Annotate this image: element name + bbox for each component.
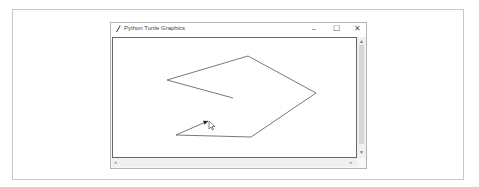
turtle-path: [167, 56, 316, 137]
turtle-drawing: [0, 0, 479, 187]
mouse-cursor-icon: [209, 121, 215, 130]
